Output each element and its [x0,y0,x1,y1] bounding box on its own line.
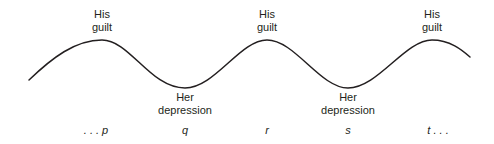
peak-label-line1: His [257,8,277,21]
peak-label: His guilt [422,8,442,34]
trough-label-line2: depression [321,104,375,117]
axis-label-r: r [265,124,269,136]
peak-label: His guilt [92,8,112,34]
trough-label-line1: Her [321,91,375,104]
peak-label-line1: His [422,8,442,21]
peak-label: His guilt [257,8,277,34]
peak-label-line2: guilt [422,21,442,34]
oscillation-diagram [0,0,494,144]
trough-label-line2: depression [158,104,212,117]
peak-label-line2: guilt [92,21,112,34]
trough-label: Her depression [321,91,375,117]
axis-label-t: t . . . [427,124,448,136]
trough-label-line1: Her [158,91,212,104]
axis-label-s: s [345,124,351,136]
wave-curve [29,40,470,88]
trough-label: Her depression [158,91,212,117]
peak-label-line1: His [92,8,112,21]
axis-label-q: q [182,124,188,136]
peak-label-line2: guilt [257,21,277,34]
axis-label-p: . . . p [84,124,108,136]
